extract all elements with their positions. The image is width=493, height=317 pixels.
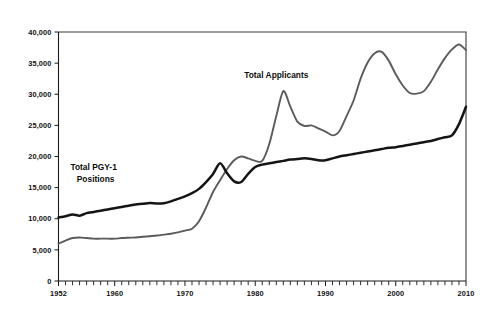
y-tick-label: 30,000 — [28, 90, 51, 99]
y-tick-label: 15,000 — [28, 183, 51, 192]
y-tick-label: 0 — [47, 277, 51, 286]
x-tick-label: 2010 — [458, 289, 475, 298]
y-tick-label: 20,000 — [28, 152, 51, 161]
y-tick-label: 25,000 — [28, 121, 51, 130]
y-axis-tick-labels: 05,00010,00015,00020,00025,00030,00035,0… — [28, 28, 51, 286]
y-tick-label: 5,000 — [33, 246, 52, 255]
x-tick-label: 2000 — [387, 289, 404, 298]
x-axis-ticks — [59, 281, 467, 286]
x-tick-label: 1952 — [50, 289, 67, 298]
line-chart-svg: 05,00010,00015,00020,00025,00030,00035,0… — [0, 0, 493, 317]
x-tick-label: 1990 — [317, 289, 334, 298]
applicants-label: Total Applicants — [244, 70, 309, 80]
y-tick-label: 35,000 — [28, 59, 51, 68]
y-tick-label: 40,000 — [28, 28, 51, 37]
y-tick-label: 10,000 — [28, 214, 51, 223]
positions-label-line2: Positions — [77, 174, 115, 184]
x-tick-label: 1960 — [106, 289, 123, 298]
positions-label: Total PGY-1 — [70, 162, 117, 172]
chart-figure: 05,00010,00015,00020,00025,00030,00035,0… — [0, 0, 493, 317]
x-axis-tick-labels: 1952196019701980199020002010 — [50, 289, 474, 298]
x-tick-label: 1970 — [177, 289, 194, 298]
x-tick-label: 1980 — [247, 289, 264, 298]
